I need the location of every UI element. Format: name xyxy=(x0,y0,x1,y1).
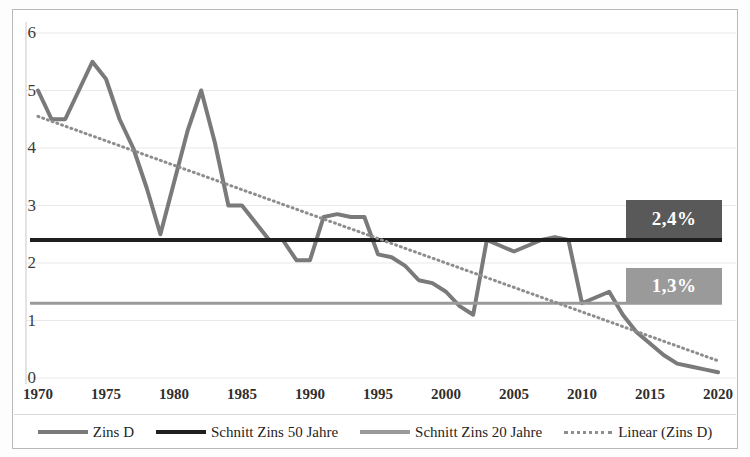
y-axis-tick-label: 3 xyxy=(14,196,36,216)
x-axis-tick-label: 2020 xyxy=(703,386,733,403)
legend-item[interactable]: Schnitt Zins 20 Jahre xyxy=(360,424,542,441)
x-axis-tick-label: 2005 xyxy=(499,386,529,403)
schnitt-50-value: 2,4% xyxy=(652,208,697,230)
series-zins-d xyxy=(38,62,718,373)
legend-swatch-icon xyxy=(156,430,206,434)
legend-item[interactable]: Zins D xyxy=(38,424,134,441)
y-axis-tick-label: 5 xyxy=(14,81,36,101)
y-axis-tick-label: 0 xyxy=(14,368,36,388)
status-badge-schnitt-20: 1,3% xyxy=(626,268,722,304)
legend-label: Zins D xyxy=(93,424,134,441)
schnitt-20-value: 1,3% xyxy=(652,275,697,297)
x-axis-tick-label: 2010 xyxy=(567,386,597,403)
y-axis-tick-label: 2 xyxy=(14,253,36,273)
x-axis-tick-label: 1980 xyxy=(159,386,189,403)
x-axis-tick-label: 1990 xyxy=(295,386,325,403)
legend-item[interactable]: Linear (Zins D) xyxy=(564,424,712,441)
x-axis-tick-label: 1975 xyxy=(91,386,121,403)
x-axis-tick-label: 2000 xyxy=(431,386,461,403)
legend-swatch-icon xyxy=(564,431,612,434)
y-axis-tick-label: 6 xyxy=(14,23,36,43)
x-axis-tick-label: 1985 xyxy=(227,386,257,403)
x-axis-tick-label: 2015 xyxy=(635,386,665,403)
legend-label: Linear (Zins D) xyxy=(618,424,712,441)
chart-container: 6543210 19701975198019851990199520002005… xyxy=(0,0,750,457)
y-axis-tick-label: 4 xyxy=(14,138,36,158)
x-axis-tick-label: 1970 xyxy=(23,386,53,403)
y-axis-tick-label: 1 xyxy=(14,311,36,331)
legend-swatch-icon xyxy=(360,430,410,434)
chart-legend: Zins DSchnitt Zins 50 JahreSchnitt Zins … xyxy=(14,414,736,449)
legend-swatch-icon xyxy=(38,430,88,434)
legend-label: Schnitt Zins 20 Jahre xyxy=(415,424,542,441)
x-axis-tick-label: 1995 xyxy=(363,386,393,403)
status-badge-schnitt-50: 2,4% xyxy=(626,200,722,238)
legend-label: Schnitt Zins 50 Jahre xyxy=(211,424,338,441)
legend-item[interactable]: Schnitt Zins 50 Jahre xyxy=(156,424,338,441)
series-layer xyxy=(30,62,722,373)
